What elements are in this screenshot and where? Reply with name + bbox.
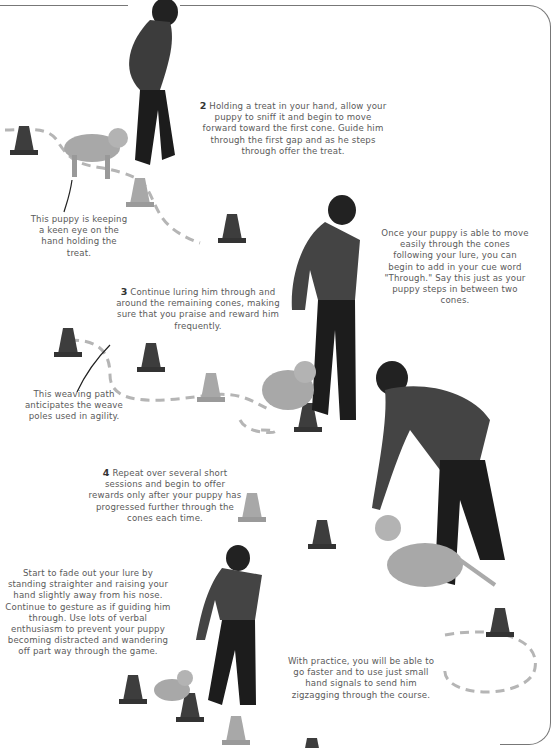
- step-4-text: 4 Repeat over several short sessions and…: [86, 467, 244, 524]
- caption-weaving-path: This weaving path anticipates the weave …: [24, 389, 124, 423]
- trainer-4: [196, 545, 262, 705]
- step-number: 2: [200, 100, 207, 111]
- step-3-text: 3 Continue luring him through and around…: [106, 286, 290, 332]
- step-number: 4: [103, 467, 110, 478]
- caption-puppy-keen: This puppy is keeping a keen eye on the …: [30, 214, 128, 259]
- caption-cue-word: Once your puppy is able to move easily t…: [380, 228, 530, 306]
- caption-fade-lure: Start to fade out your lure by standing …: [4, 568, 172, 658]
- puppy-2: [262, 361, 316, 410]
- trainer-1: [129, 0, 178, 165]
- step-number: 3: [121, 286, 128, 297]
- caption-practice: With practice, you will be able to go fa…: [286, 656, 436, 701]
- step-2-text: 2 Holding a treat in your hand, allow yo…: [198, 100, 388, 157]
